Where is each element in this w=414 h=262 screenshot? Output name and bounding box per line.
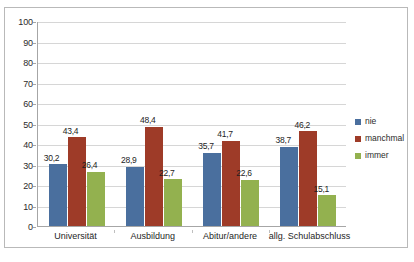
y-axis-tick-label: 70	[7, 79, 33, 88]
x-axis: UniversitätAusbildungAbitur/andereallg. …	[37, 230, 346, 246]
y-axis-tick-label: 10	[7, 202, 33, 211]
legend-label: manchmal	[365, 134, 404, 143]
y-axis-tick	[33, 145, 36, 146]
legend-item-manchmal[interactable]: manchmal	[355, 130, 409, 147]
bar-manchmal[interactable]	[222, 141, 240, 226]
chart-legend: niemanchmalimmer	[355, 113, 409, 164]
bar-value-label: 35,7	[198, 142, 214, 151]
bar-nie[interactable]	[126, 167, 144, 226]
legend-swatch-icon	[355, 153, 361, 159]
y-axis-tick-label: 90	[7, 38, 33, 47]
bar-value-label: 28,9	[121, 156, 137, 165]
bar-nie[interactable]	[49, 164, 67, 226]
x-axis-category-label: Abitur/andere	[192, 232, 269, 241]
legend-item-immer[interactable]: immer	[355, 147, 409, 164]
bar-group: 35,741,722,6	[193, 22, 270, 226]
y-axis-tick	[33, 166, 36, 167]
bar-nie[interactable]	[203, 153, 221, 226]
bar-value-label: 26,4	[82, 161, 98, 170]
bar-nie[interactable]	[280, 147, 298, 226]
bar-immer[interactable]	[318, 195, 336, 226]
y-axis-tick	[33, 186, 36, 187]
bar-immer[interactable]	[241, 180, 259, 226]
bar-group: 38,746,215,1	[270, 22, 347, 226]
y-axis-tick-label: 0	[7, 223, 33, 232]
y-axis-tick-label: 80	[7, 59, 33, 68]
x-axis-category-label: allg. Schulabschluss	[269, 232, 346, 241]
y-axis-tick-label: 20	[7, 182, 33, 191]
bar-value-label: 38,7	[275, 136, 291, 145]
plot-area: 30,243,426,428,948,422,735,741,722,638,7…	[37, 22, 346, 227]
legend-item-nie[interactable]: nie	[355, 113, 409, 130]
y-axis-tick	[33, 227, 36, 228]
bar-value-label: 48,4	[140, 116, 156, 125]
legend-swatch-icon	[355, 119, 361, 125]
bar-value-label: 15,1	[313, 185, 329, 194]
y-axis-tick	[33, 43, 36, 44]
bar-value-label: 43,4	[63, 127, 79, 136]
y-axis-tick-label: 40	[7, 141, 33, 150]
y-axis-tick-label: 50	[7, 120, 33, 129]
y-axis: 1009080706050403020100	[5, 22, 33, 227]
y-axis-tick	[33, 104, 36, 105]
bar-value-label: 41,7	[217, 130, 233, 139]
x-axis-tick	[114, 230, 115, 233]
bar-manchmal[interactable]	[299, 131, 317, 226]
x-axis-category-label: Ausbildung	[114, 232, 191, 241]
bar-manchmal[interactable]	[68, 137, 86, 226]
bar-value-label: 30,2	[44, 154, 60, 163]
y-axis-tick-label: 60	[7, 100, 33, 109]
y-axis-tick-label: 30	[7, 161, 33, 170]
legend-label: immer	[365, 151, 389, 160]
bar-group: 30,243,426,4	[38, 22, 115, 226]
y-axis-tick	[33, 125, 36, 126]
legend-label: nie	[365, 117, 376, 126]
bar-value-label: 22,6	[236, 169, 252, 178]
x-axis-category-label: Universität	[37, 232, 114, 241]
y-axis-tick-label: 100	[7, 18, 33, 27]
bar-value-label: 22,7	[159, 169, 175, 178]
chart-frame: 1009080706050403020100 30,243,426,428,94…	[4, 7, 408, 248]
x-axis-tick	[269, 230, 270, 233]
bar-value-label: 46,2	[294, 121, 310, 130]
x-axis-tick	[192, 230, 193, 233]
y-axis-tick	[33, 84, 36, 85]
y-axis-tick	[33, 63, 36, 64]
legend-swatch-icon	[355, 136, 361, 142]
bar-immer[interactable]	[87, 172, 105, 226]
y-axis-tick	[33, 22, 36, 23]
bar-group: 28,948,422,7	[115, 22, 192, 226]
bar-immer[interactable]	[164, 179, 182, 226]
y-axis-tick	[33, 207, 36, 208]
